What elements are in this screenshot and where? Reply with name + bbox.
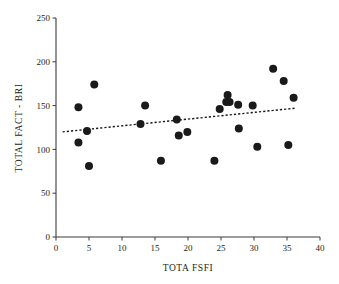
tick-label: 40 [316,243,326,253]
data-point [74,138,82,146]
data-point [85,162,93,170]
data-point [210,157,218,165]
data-point [280,77,288,85]
data-point [235,124,243,132]
tick-label: 25 [217,243,227,253]
data-point [136,120,144,128]
data-point [183,128,191,136]
data-point [234,101,242,109]
tick-label: 150 [37,101,51,111]
data-point [290,94,298,102]
data-point [74,103,82,111]
tick-label: 200 [37,57,51,67]
tick-label: 0 [54,243,59,253]
data-point [269,65,277,73]
x-axis-ticks: 0510152025303540 [54,237,325,253]
axes-group [56,18,320,237]
data-point [224,91,232,99]
tick-label: 250 [37,13,51,23]
tick-label: 35 [283,243,293,253]
tick-label: 10 [118,243,128,253]
scatter-plot-figure: 050100150200250 0510152025303540 TOTA FS… [0,0,339,284]
data-point [226,98,234,106]
tick-label: 0 [46,232,51,242]
data-point [83,127,91,135]
chart-canvas: 050100150200250 0510152025303540 TOTA FS… [0,0,339,284]
data-point [90,81,98,89]
y-axis-title: TOTAL FACT - BRI [14,84,24,173]
tick-label: 15 [151,243,161,253]
tick-label: 20 [184,243,194,253]
tick-label: 50 [41,188,51,198]
data-point [157,157,165,165]
tick-label: 100 [37,145,51,155]
data-point [173,116,181,124]
tick-label: 30 [250,243,260,253]
data-point [284,141,292,149]
x-axis-title: TOTA FSFI [163,263,214,273]
data-point [253,143,261,151]
data-point [175,131,183,139]
data-point [216,105,224,113]
data-points-group [74,65,297,170]
tick-label: 5 [87,243,92,253]
data-point [249,102,257,110]
y-axis-ticks: 050100150200250 [37,13,57,242]
data-point [141,102,149,110]
